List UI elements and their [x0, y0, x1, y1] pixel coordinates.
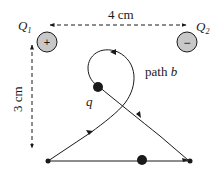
path-b-label: path b	[145, 64, 178, 79]
minus-sign: −	[183, 36, 190, 50]
charge-q-on-path-a	[137, 155, 147, 165]
q1-label: Q1	[18, 18, 31, 35]
q-label-path-b: q	[86, 94, 93, 109]
point-b	[188, 159, 193, 164]
charge-q2: −	[177, 32, 197, 52]
charge-q-on-path-b	[93, 82, 103, 92]
q2-label: Q2	[196, 19, 209, 36]
arrow-icon	[86, 130, 93, 135]
vertical-dimension-label: 3 cm	[10, 86, 25, 112]
horizontal-dimension-label: 4 cm	[108, 7, 134, 22]
charge-q1: +	[37, 32, 57, 52]
plus-sign: +	[44, 36, 50, 48]
diagram: 4 cm 3 cm + Q1 − Q2 A B path a q q path …	[0, 0, 222, 169]
point-a	[46, 159, 51, 164]
